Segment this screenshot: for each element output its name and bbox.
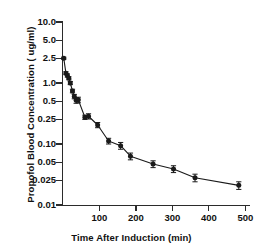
data-marker: [76, 97, 81, 102]
data-marker: [95, 122, 100, 127]
x-tick-label: 400: [189, 212, 229, 223]
y-tick-label-wrap: 0.10: [0, 138, 56, 150]
y-tick-label-wrap: 10.0: [0, 16, 56, 28]
y-tick-label-wrap: 0.025: [0, 174, 56, 186]
data-point: [68, 81, 73, 86]
y-tick-label-wrap: 2.5: [0, 52, 56, 64]
x-tick-label: 200: [116, 212, 156, 223]
x-tick-mark: [99, 205, 100, 211]
y-tick-mark: [56, 180, 62, 181]
data-marker: [118, 143, 123, 148]
data-marker: [70, 88, 75, 93]
y-tick-mark: [56, 204, 62, 205]
y-tick-mark: [56, 40, 62, 41]
y-tick-label-wrap: 0.25: [0, 113, 56, 125]
y-tick-label-wrap: 0.05: [0, 156, 56, 168]
y-tick-mark: [56, 101, 62, 102]
x-tick-label: 500: [225, 212, 263, 223]
y-tick-mark: [56, 58, 62, 59]
y-tick-label: 0.01: [10, 199, 56, 210]
data-marker: [68, 81, 73, 86]
data-marker: [128, 154, 133, 159]
x-tick-mark: [172, 205, 173, 211]
y-tick-label-wrap: 5.0: [0, 34, 56, 46]
data-point: [150, 161, 155, 168]
x-tick-mark: [135, 205, 136, 211]
data-point: [171, 166, 176, 173]
y-tick-mark: [56, 162, 62, 163]
y-tick-label: 10.0: [10, 16, 56, 27]
y-tick-mark: [56, 21, 62, 22]
data-marker: [236, 183, 241, 188]
x-tick-label: 300: [152, 212, 192, 223]
data-point: [192, 174, 197, 182]
data-marker: [151, 162, 156, 167]
y-tick-label: 0.10: [10, 138, 56, 149]
data-line: [64, 58, 239, 185]
y-tick-label-wrap: 1.0: [0, 77, 56, 89]
y-tick-label-wrap: 0.5: [0, 95, 56, 107]
data-marker: [66, 76, 71, 81]
data-marker: [106, 138, 111, 143]
y-tick-mark: [56, 119, 62, 120]
data-marker: [61, 56, 66, 61]
data-point: [236, 182, 241, 190]
data-point: [66, 76, 71, 81]
x-tick-mark: [245, 205, 246, 211]
x-tick-mark: [208, 205, 209, 211]
x-axis-label: Time After Induction (min): [0, 232, 263, 243]
y-tick-label: 0.025: [10, 174, 56, 185]
y-tick-label: 5.0: [10, 34, 56, 45]
y-tick-mark: [56, 143, 62, 144]
y-tick-label: 0.05: [10, 156, 56, 167]
y-tick-label: 0.5: [10, 95, 56, 106]
chart-figure: Propofol Blood Concentration ( ug/ml) Ti…: [0, 0, 263, 252]
data-marker: [171, 166, 176, 171]
data-marker: [193, 175, 198, 180]
data-marker: [86, 114, 91, 119]
y-tick-label-wrap: 0.01: [0, 199, 56, 211]
y-tick-label: 2.5: [10, 52, 56, 63]
y-tick-mark: [56, 82, 62, 83]
y-tick-label: 0.25: [10, 113, 56, 124]
plot-area: [63, 22, 249, 205]
data-point: [70, 88, 75, 93]
x-tick-label: 100: [79, 212, 119, 223]
y-tick-label: 1.0: [10, 77, 56, 88]
